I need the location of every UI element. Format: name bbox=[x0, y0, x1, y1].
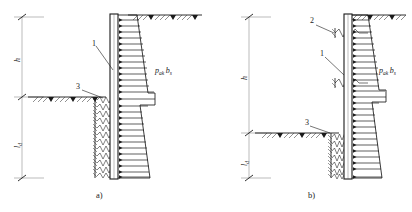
dimension-line-a bbox=[14, 17, 44, 178]
panel-caption-a: a) bbox=[96, 190, 103, 200]
dimension-label-ld-a: ld bbox=[14, 143, 22, 148]
engineering-figure: h ld 1 3 pak bs a) h ld 2 1 3 pak bs b) bbox=[0, 0, 412, 212]
callout-3-a: 3 bbox=[76, 83, 80, 91]
callout-3-b: 3 bbox=[305, 119, 309, 127]
panel-b bbox=[241, 14, 406, 181]
ground-surface-right-b bbox=[348, 15, 406, 20]
retaining-wall-b bbox=[344, 14, 352, 179]
callout-1-b: 1 bbox=[320, 50, 324, 58]
dimension-label-ld-b: ld bbox=[241, 161, 249, 166]
load-label-a: pak bs bbox=[155, 67, 172, 75]
retaining-wall-a bbox=[110, 14, 118, 179]
panel-a bbox=[14, 14, 202, 181]
dimension-label-h-b: h bbox=[241, 76, 249, 80]
pressure-diagram-b bbox=[352, 15, 386, 178]
figure-canvas bbox=[0, 0, 412, 212]
load-label-b: pak bs bbox=[379, 67, 396, 75]
callout-1-a: 1 bbox=[92, 40, 96, 48]
pressure-diagram-a bbox=[118, 15, 155, 178]
callout-2-b: 2 bbox=[310, 17, 314, 25]
dimension-line-b bbox=[241, 17, 271, 178]
dimension-label-h-a: h bbox=[14, 58, 22, 62]
panel-caption-b: b) bbox=[308, 190, 315, 200]
ground-surface-left-b bbox=[255, 133, 339, 138]
leaders-a bbox=[82, 46, 113, 98]
ground-surface-right-a bbox=[128, 15, 202, 20]
ground-surface-left-a bbox=[28, 97, 106, 102]
